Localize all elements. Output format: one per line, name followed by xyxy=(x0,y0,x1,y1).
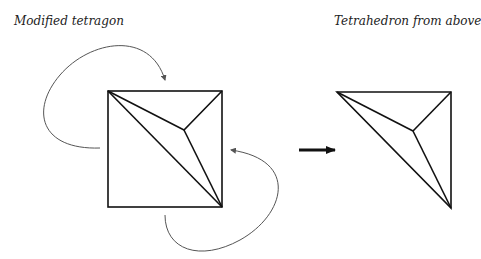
fold-edge-lower xyxy=(184,130,222,207)
edge-to-apex-a xyxy=(337,92,413,131)
tetrahedron-figure xyxy=(337,92,451,208)
fold-arrow-top-icon xyxy=(44,46,165,148)
modified-tetragon-figure xyxy=(108,91,222,207)
edge-to-apex-b xyxy=(413,92,451,131)
fold-edge-upper xyxy=(108,91,222,130)
edge-to-apex-c xyxy=(413,131,451,208)
